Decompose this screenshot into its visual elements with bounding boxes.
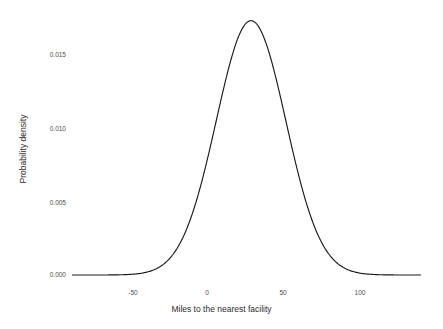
y-axis-title: Probability density xyxy=(18,79,28,219)
x-tick-label-0: -50 xyxy=(113,289,153,296)
y-tick-label-2: 0.005 xyxy=(6,199,66,206)
x-tick-label-2: 50 xyxy=(263,289,303,296)
density-curve xyxy=(72,21,420,275)
x-axis-title: Miles to the nearest facility xyxy=(0,304,443,314)
density-curve-layer xyxy=(0,0,443,329)
probability-density-chart: 0.015 0.010 0.005 0.000 -50 0 50 100 Mil… xyxy=(0,0,443,329)
x-tick-label-3: 100 xyxy=(340,289,380,296)
x-tick-label-1: 0 xyxy=(187,289,227,296)
y-tick-label-0: 0.015 xyxy=(6,51,66,58)
y-tick-label-3: 0.000 xyxy=(6,271,66,278)
y-tick-label-1: 0.010 xyxy=(6,125,66,132)
